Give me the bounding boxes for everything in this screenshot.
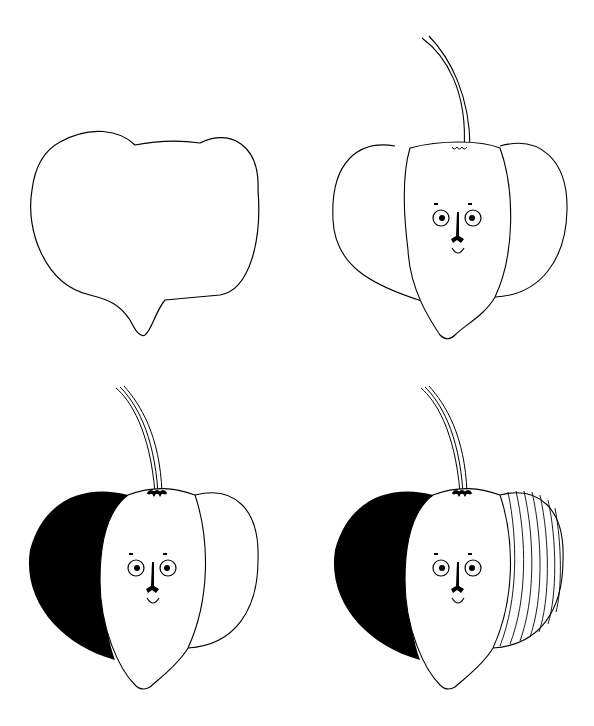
step-4-striped bbox=[334, 386, 563, 689]
step-3-shaded bbox=[29, 386, 258, 689]
step-2-segments bbox=[333, 36, 567, 339]
step-1-outline bbox=[31, 131, 259, 335]
illustration bbox=[0, 0, 594, 726]
